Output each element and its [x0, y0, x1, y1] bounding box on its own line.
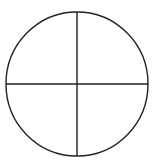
quadrant-circle-diagram — [0, 0, 153, 162]
